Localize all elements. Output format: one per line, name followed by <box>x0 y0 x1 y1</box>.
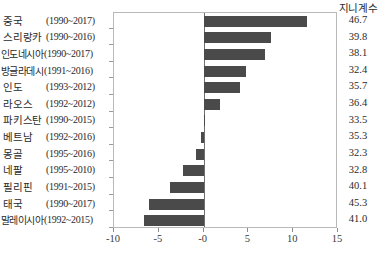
bar <box>196 149 204 160</box>
country-name-label: 중국 <box>3 13 23 28</box>
country-name-label: 몽골 <box>3 146 23 161</box>
category-row: 네팔(1995~2010) <box>0 161 113 178</box>
gini-value: 38.1 <box>337 45 379 62</box>
category-row: 파키스탄(1990~2015) <box>0 112 113 129</box>
category-row: 필리핀(1991~2015) <box>0 178 113 195</box>
bar <box>204 49 266 60</box>
category-row: 인도(1993~2012) <box>0 78 113 95</box>
period-label: (1993~2012) <box>46 81 95 92</box>
bar-row <box>114 96 336 113</box>
country-name-label: 라오스 <box>3 96 32 111</box>
bar <box>204 16 307 27</box>
country-name-label: 필리핀 <box>3 179 32 194</box>
bar <box>149 199 204 210</box>
period-label: (1990~2017) <box>46 15 95 26</box>
period-label: (1992~2015) <box>44 214 93 225</box>
x-tick-label: 5 <box>245 233 250 244</box>
gini-value: 32.4 <box>337 62 379 79</box>
category-row: 중국(1990~2017) <box>0 12 113 29</box>
gini-value: 35.7 <box>337 78 379 95</box>
gini-value: 45.3 <box>337 195 379 212</box>
country-name-label: 인도네시아 <box>1 46 43 61</box>
gini-value: 35.3 <box>337 128 379 145</box>
category-row: 몽골(1995~2016) <box>0 145 113 162</box>
period-label: (1992~2012) <box>46 98 95 109</box>
bar-row <box>114 212 336 229</box>
country-name-label: 파키스탄 <box>3 112 42 127</box>
x-tick <box>203 228 204 232</box>
gini-value-column: 지니계수 46.739.838.132.435.736.433.535.332.… <box>337 0 379 244</box>
bar-row <box>114 13 336 30</box>
category-row: 라오스(1992~2012) <box>0 95 113 112</box>
period-label: (1991~2015) <box>46 181 95 192</box>
gini-value: 41.0 <box>337 211 379 228</box>
chart-figure: 중국(1990~2017)스리랑카(1990~2016)인도네시아(1990~2… <box>0 0 379 256</box>
category-row: 인도네시아(1990~2017) <box>0 45 113 62</box>
bar <box>204 115 206 126</box>
gini-value: 46.7 <box>337 12 379 29</box>
country-name-label: 방글라데시 <box>1 63 43 78</box>
bar-row <box>114 196 336 213</box>
x-tick <box>158 228 159 232</box>
period-label: (1990~2017) <box>46 198 95 209</box>
category-label-column: 중국(1990~2017)스리랑카(1990~2016)인도네시아(1990~2… <box>0 12 113 228</box>
bar-row <box>114 129 336 146</box>
category-row: 스리랑카(1990~2016) <box>0 29 113 46</box>
gini-value: 36.4 <box>337 95 379 112</box>
category-row: 말레이시아(1992~2015) <box>0 211 113 228</box>
x-tick <box>113 228 114 232</box>
category-row: 태국(1990~2017) <box>0 195 113 212</box>
x-tick-label: -5 <box>153 233 162 244</box>
bar-row <box>114 30 336 47</box>
bar <box>183 165 204 176</box>
plot-area <box>113 12 337 228</box>
category-row: 방글라데시(1991~2016) <box>0 62 113 79</box>
period-label: (1995~2010) <box>46 164 95 175</box>
bar-row <box>114 79 336 96</box>
bar <box>170 182 203 193</box>
bar <box>204 99 220 110</box>
category-row: 베트남(1992~2016) <box>0 128 113 145</box>
period-label: (1990~2017) <box>44 48 93 59</box>
x-tick-label: -10 <box>106 233 120 244</box>
bar-row <box>114 163 336 180</box>
bar-row <box>114 179 336 196</box>
gini-value: 32.8 <box>337 162 379 179</box>
x-tick-label: -0 <box>198 233 207 244</box>
bar <box>144 215 204 226</box>
gini-value: 32.3 <box>337 145 379 162</box>
x-tick <box>292 228 293 232</box>
period-label: (1992~2016) <box>46 131 95 142</box>
bar-row <box>114 146 336 163</box>
country-name-label: 말레이시아 <box>1 212 43 227</box>
bar <box>204 32 271 43</box>
period-label: (1990~2015) <box>46 114 95 125</box>
bar-row <box>114 113 336 130</box>
country-name-label: 베트남 <box>3 129 32 144</box>
country-name-label: 태국 <box>3 196 23 211</box>
period-label: (1995~2016) <box>46 148 95 159</box>
x-tick <box>247 228 248 232</box>
country-name-label: 인도 <box>3 79 23 94</box>
country-name-label: 네팔 <box>3 162 23 177</box>
country-name-label: 스리랑카 <box>3 29 42 44</box>
x-tick-label: 10 <box>287 233 298 244</box>
gini-value: 39.8 <box>337 29 379 46</box>
gini-value: 33.5 <box>337 112 379 129</box>
x-axis: -10-5-051015 <box>113 228 337 256</box>
bar <box>201 132 204 143</box>
bar-row <box>114 63 336 80</box>
bar <box>204 66 246 77</box>
period-label: (1990~2016) <box>46 31 95 42</box>
bar-row <box>114 46 336 63</box>
period-label: (1991~2016) <box>44 65 93 76</box>
gini-value: 40.1 <box>337 178 379 195</box>
bar <box>204 82 241 93</box>
